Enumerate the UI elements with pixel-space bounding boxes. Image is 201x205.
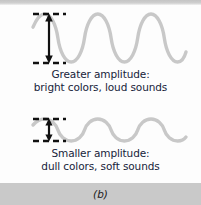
- large-amplitude-caption: Greater amplitude: bright colors, loud s…: [0, 68, 201, 93]
- small-amplitude-caption: Smaller amplitude: dull colors, soft sou…: [0, 147, 201, 172]
- small-caption-line-2: dull colors, soft sounds: [0, 160, 201, 173]
- large-amplitude-wave-path: [33, 14, 186, 62]
- large-caption-line-2: bright colors, loud sounds: [0, 81, 201, 94]
- large-caption-line-1: Greater amplitude:: [0, 68, 201, 81]
- small-amplitude-wave-path: [33, 119, 186, 141]
- small-caption-line-1: Smaller amplitude:: [0, 147, 201, 160]
- small-amplitude-diagram: [0, 110, 201, 146]
- large-amplitude-diagram: [0, 8, 201, 68]
- figure-part-label: (b): [0, 188, 201, 200]
- amplitude-figure: Greater amplitude: bright colors, loud s…: [0, 0, 201, 205]
